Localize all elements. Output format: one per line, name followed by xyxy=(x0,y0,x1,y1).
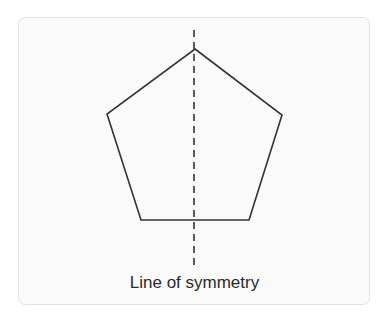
pentagon-shape xyxy=(107,49,282,220)
symmetry-caption: Line of symmetry xyxy=(0,273,389,293)
